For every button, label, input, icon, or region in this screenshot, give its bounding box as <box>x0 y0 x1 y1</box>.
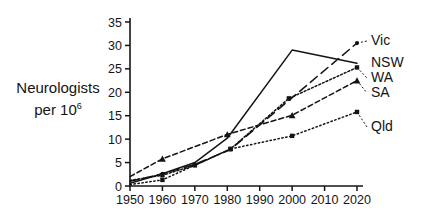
neurologist-density-chart: Neurologists per 106 0510152025303519501… <box>0 0 422 216</box>
y-tick-label: 15 <box>108 109 122 123</box>
y-tick-label: 0 <box>115 180 122 194</box>
y-tick-label: 5 <box>115 156 122 170</box>
series-nsw <box>130 50 357 183</box>
series-label-vic: Vic <box>371 32 390 48</box>
x-tick-label: 1950 <box>116 193 144 207</box>
series-label-nsw: NSW <box>371 54 404 70</box>
x-tick-label: 1990 <box>246 193 274 207</box>
x-tick-label: 1960 <box>149 193 177 207</box>
series-label-wa: WA <box>371 69 394 85</box>
x-axis-ticks: 19501960197019801990200020102020 <box>116 186 371 207</box>
y-axis-title-line2: per 106 <box>34 101 82 118</box>
data-point <box>160 173 164 177</box>
series-labels: VicNSWWASAQld <box>357 32 404 134</box>
series-line <box>130 81 357 177</box>
data-point <box>287 96 291 100</box>
y-axis-ticks: 05101520253035 <box>108 16 130 194</box>
series-sa <box>130 77 360 176</box>
y-axis-title: Neurologists per 106 <box>6 78 110 119</box>
x-tick-label: 1980 <box>213 193 241 207</box>
y-tick-label: 10 <box>108 133 122 147</box>
y-tick-label: 35 <box>108 16 122 30</box>
data-point <box>354 77 361 83</box>
data-point <box>228 147 232 151</box>
y-tick-label: 30 <box>108 39 122 53</box>
series-label-qld: Qld <box>371 118 393 134</box>
data-point <box>290 134 294 138</box>
label-leader-line <box>357 112 367 127</box>
y-tick-label: 20 <box>108 86 122 100</box>
x-tick-label: 2020 <box>343 193 371 207</box>
y-axis-title-exponent: 6 <box>77 101 82 111</box>
series-label-sa: SA <box>371 84 390 100</box>
x-tick-label: 2010 <box>311 193 339 207</box>
y-axis-title-line1: Neurologists <box>16 79 99 96</box>
x-tick-label: 1970 <box>181 193 209 207</box>
x-tick-label: 2000 <box>278 193 306 207</box>
y-tick-label: 25 <box>108 62 122 76</box>
data-point <box>160 178 164 182</box>
series-line <box>130 50 357 183</box>
data-point <box>289 112 296 118</box>
series-wa <box>130 65 359 180</box>
data-point <box>159 156 166 162</box>
